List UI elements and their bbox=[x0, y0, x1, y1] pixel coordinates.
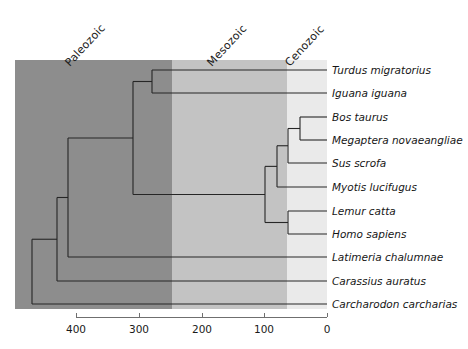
taxon-label: Myotis lucifugus bbox=[332, 182, 417, 193]
taxon-label: Homo sapiens bbox=[332, 229, 406, 240]
axis-baseline bbox=[76, 317, 327, 318]
taxon-label: Bos taurus bbox=[332, 112, 388, 123]
tree-branches bbox=[0, 0, 468, 349]
axis-tick-label: 100 bbox=[254, 323, 274, 335]
axis-tick bbox=[264, 313, 265, 317]
phylogenetic-tree-figure: Paleozoic Mesozoic Cenozoic Turdus migra… bbox=[0, 0, 468, 349]
axis-tick bbox=[327, 313, 328, 317]
axis-tick-label: 200 bbox=[192, 323, 212, 335]
taxon-label: Turdus migratorius bbox=[332, 65, 431, 76]
axis-tick bbox=[76, 313, 77, 317]
taxon-label: Carassius auratus bbox=[332, 276, 426, 287]
taxon-label: Latimeria chalumnae bbox=[332, 252, 443, 263]
taxon-label: Megaptera novaeangliae bbox=[332, 135, 463, 146]
taxon-label: Lemur catta bbox=[332, 206, 396, 217]
taxon-label: Carcharodon carcharias bbox=[332, 299, 457, 310]
taxon-label: Iguana iguana bbox=[332, 88, 407, 99]
axis-tick-label: 0 bbox=[324, 323, 331, 335]
axis-tick bbox=[202, 313, 203, 317]
taxon-label: Sus scrofa bbox=[332, 158, 386, 169]
axis-tick bbox=[139, 313, 140, 317]
axis-tick-label: 300 bbox=[129, 323, 149, 335]
axis-tick-label: 400 bbox=[66, 323, 86, 335]
